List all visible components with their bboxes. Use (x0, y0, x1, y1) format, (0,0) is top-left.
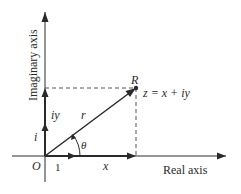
x-component-arrow-icon (127, 153, 136, 160)
iy-component-arrow-icon (42, 88, 49, 97)
r-label: r (81, 108, 86, 122)
origin-label: O (32, 159, 41, 173)
x-label: x (102, 159, 109, 173)
unit-imag-label: i (34, 130, 37, 144)
point-equation-label: z = x + iy (142, 86, 191, 100)
unit-real-arrow-icon (68, 153, 76, 160)
vector-r (45, 90, 134, 157)
argand-diagram: Imaginary axis Real axis O 1 i iy x r θ … (0, 0, 241, 194)
point-r-label: R (130, 73, 139, 87)
theta-label: θ (81, 139, 87, 151)
imaginary-axis-label: Imaginary axis (26, 29, 40, 101)
real-axis-label: Real axis (163, 163, 208, 177)
iy-label: iy (51, 108, 60, 122)
imaginary-axis-arrow-icon (42, 12, 49, 22)
unit-real-label: 1 (55, 161, 61, 173)
real-axis-arrow-icon (217, 153, 226, 160)
unit-imag-arrow-icon (42, 123, 49, 131)
